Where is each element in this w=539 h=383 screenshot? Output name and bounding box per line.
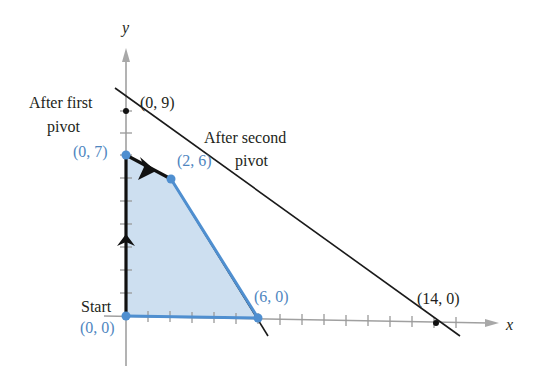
feasible-region [126, 155, 258, 318]
after-first-pivot-label-line2: pivot [47, 118, 80, 136]
point-0-9 [123, 108, 129, 114]
after-second-pivot-label-line2: pivot [235, 152, 268, 170]
point-label-2-6: (2, 6) [177, 152, 212, 170]
point-label-6-0: (6, 0) [254, 288, 289, 306]
x-axis-arrow-icon [485, 319, 499, 327]
start-label: Start [81, 298, 111, 316]
after-second-pivot-label-line1: After second [204, 129, 286, 147]
point-14-0 [433, 320, 439, 326]
after-first-pivot-label-line1: After first [29, 94, 93, 112]
x-axis-label: x [506, 316, 513, 334]
point-label-0-9: (0, 9) [140, 94, 175, 112]
point-0-7 [122, 151, 131, 160]
y-axis-arrow-icon [122, 48, 130, 62]
point-0-0 [122, 312, 131, 321]
point-6-0 [254, 314, 263, 323]
point-2-6 [167, 175, 176, 184]
point-label-0-7: (0, 7) [73, 143, 108, 161]
y-axis-label: y [122, 19, 129, 37]
simplex-diagram: y x After first pivot After second pivot… [0, 0, 539, 383]
point-label-14-0: (14, 0) [417, 290, 460, 308]
point-label-0-0: (0, 0) [80, 319, 115, 337]
feasible-edge-bottom [126, 316, 258, 318]
